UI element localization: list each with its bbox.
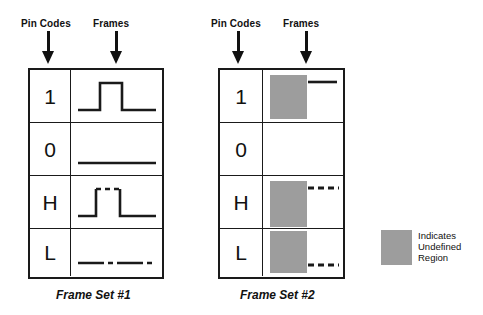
pin-code-label: 1 [235, 86, 247, 107]
waveform-pulse-dashed-top [72, 176, 162, 227]
pin-code-cell: H [220, 176, 263, 228]
table-row: 1 [30, 70, 162, 123]
down-arrow-icon [232, 31, 245, 64]
waveform-solid-high [264, 70, 343, 121]
diagram-canvas: Pin Codes Frames 1 [0, 0, 483, 315]
frame-waveform-cell [72, 70, 162, 122]
frame-set-2-caption: Frame Set #2 [240, 288, 315, 302]
pin-code-cell: 0 [220, 123, 263, 175]
frame-set-1-caption: Frame Set #1 [56, 288, 131, 302]
frame-set-2-pin-codes-header: Pin Codes [211, 18, 261, 29]
frame-waveform-cell [72, 229, 162, 276]
table-row: H [220, 176, 343, 229]
pin-code-label: L [235, 242, 247, 263]
frame-waveform-cell [264, 176, 343, 228]
waveform-dashed-low [264, 229, 343, 274]
waveform-solid-pulse-high [72, 70, 162, 121]
frame-set-1-pin-codes-header: Pin Codes [21, 18, 71, 29]
frame-set-1-frames-header: Frames [93, 18, 129, 29]
down-arrow-icon [300, 31, 313, 64]
frame-set-1-table: 1 0 [28, 68, 164, 279]
table-row: 1 [220, 70, 343, 123]
pin-code-cell: 0 [30, 123, 71, 175]
legend-line-3: Region [418, 252, 448, 264]
pin-code-label: L [44, 242, 56, 263]
waveform-solid-line-low [72, 123, 162, 174]
pin-code-label: H [233, 192, 248, 213]
pin-code-cell: L [30, 229, 71, 276]
pin-code-cell: 1 [220, 70, 263, 122]
frame-waveform-cell [264, 70, 343, 122]
down-arrow-icon [42, 31, 55, 64]
legend-line-2: Undefined [418, 241, 461, 253]
pin-code-cell: 1 [30, 70, 71, 122]
pin-code-cell: H [30, 176, 71, 228]
pin-code-label: 0 [235, 139, 247, 160]
frame-set-2-table: 1 0 H [218, 68, 345, 279]
legend-undefined-swatch [381, 230, 412, 265]
pin-code-label: H [42, 192, 57, 213]
table-row: L [220, 229, 343, 276]
pin-code-cell: L [220, 229, 263, 276]
table-row: 0 [30, 123, 162, 176]
frame-waveform-cell [264, 229, 343, 276]
frame-set-2-frames-header: Frames [283, 18, 319, 29]
frame-waveform-cell [72, 176, 162, 228]
down-arrow-icon [110, 31, 123, 64]
pin-code-label: 0 [44, 139, 56, 160]
frame-waveform-cell-empty [264, 123, 343, 175]
table-row: L [30, 229, 162, 276]
table-row: H [30, 176, 162, 229]
frame-waveform-cell [72, 123, 162, 175]
table-row: 0 [220, 123, 343, 176]
pin-code-label: 1 [44, 86, 56, 107]
waveform-dashed-high [264, 176, 343, 227]
waveform-dash-dot-line-low [72, 229, 162, 274]
legend-line-1: Indicates [418, 230, 456, 242]
